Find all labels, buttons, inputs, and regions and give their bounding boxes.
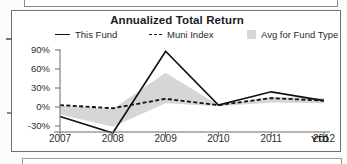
chart-plot-area: 90%60%30%0%-30% 200720082009201020112012… bbox=[12, 39, 342, 152]
x-axis-labels: 200720082009201020112012 bbox=[12, 39, 342, 152]
x-axis-tick-2008: 2008 bbox=[93, 133, 133, 144]
x-axis-tick-2007: 2007 bbox=[40, 133, 80, 144]
scanned-page-background: Annualized Total Return This Fund Muni I… bbox=[0, 0, 347, 164]
x-axis-tick-2009: 2009 bbox=[146, 133, 186, 144]
x-axis-tick-2010: 2010 bbox=[198, 133, 238, 144]
x-axis-tick-2011: 2011 bbox=[251, 133, 291, 144]
chart-title: Annualized Total Return bbox=[12, 14, 342, 26]
scan-artifact-bottom-box bbox=[22, 158, 342, 164]
solid-line-swatch-icon bbox=[55, 34, 70, 35]
scan-artifact-top-box bbox=[24, 0, 338, 7]
gray-box-swatch-icon bbox=[247, 30, 256, 39]
dashed-line-swatch-icon bbox=[149, 34, 162, 35]
x-axis-ytd-label: YTD bbox=[311, 134, 329, 144]
annualized-total-return-chart: Annualized Total Return This Fund Muni I… bbox=[11, 10, 341, 152]
